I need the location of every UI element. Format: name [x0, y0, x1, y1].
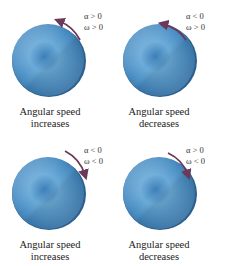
- alpha-label: α > 0: [186, 145, 205, 156]
- caption: Angular speed decreases: [109, 106, 209, 130]
- caption: Angular speed increases: [0, 106, 100, 130]
- panel-top-left: α > 0 ω > 0 Angular speed increases: [0, 0, 113, 133]
- panel-top-right: α < 0 ω > 0 Angular speed decreases: [113, 0, 226, 133]
- panel-bottom-right: α > 0 ω < 0 Angular speed decreases: [113, 133, 226, 266]
- sign-labels: α < 0 ω < 0: [84, 145, 103, 167]
- omega-label: ω > 0: [84, 22, 103, 33]
- sign-labels: α > 0 ω < 0: [186, 145, 205, 167]
- sign-labels: α < 0 ω > 0: [186, 11, 205, 33]
- omega-label: ω < 0: [84, 156, 103, 167]
- omega-label: ω > 0: [186, 22, 205, 33]
- sign-labels: α > 0 ω > 0: [84, 11, 103, 33]
- alpha-label: α < 0: [84, 145, 103, 156]
- caption: Angular speed increases: [0, 239, 100, 263]
- panel-bottom-left: α < 0 ω < 0 Angular speed increases: [0, 133, 113, 266]
- omega-label: ω < 0: [186, 156, 205, 167]
- alpha-label: α < 0: [186, 11, 205, 22]
- caption: Angular speed decreases: [109, 239, 209, 263]
- alpha-label: α > 0: [84, 11, 103, 22]
